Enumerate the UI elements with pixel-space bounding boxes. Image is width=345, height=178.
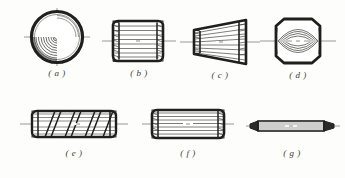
figure-g: ( g ) bbox=[244, 104, 342, 148]
figure-a-caption: ( a ) bbox=[27, 68, 87, 78]
figure-d-drawing bbox=[258, 12, 338, 70]
point-right-g bbox=[324, 121, 334, 131]
figure-e-drawing bbox=[18, 100, 130, 148]
figure-d-caption: ( d ) bbox=[268, 70, 328, 80]
figure-a-drawing bbox=[22, 6, 92, 68]
figure-b-caption: ( b ) bbox=[109, 68, 169, 78]
outer-circle-a bbox=[32, 12, 83, 63]
figure-b-drawing bbox=[100, 14, 178, 68]
figure-g-drawing bbox=[244, 104, 342, 148]
figure-c-drawing bbox=[178, 12, 262, 70]
figure-e-caption: ( e ) bbox=[44, 148, 104, 158]
point-left-g bbox=[250, 121, 258, 131]
figure-d: ( d ) bbox=[258, 12, 338, 70]
figure-f-caption: ( f ) bbox=[158, 148, 218, 158]
figure-f-drawing bbox=[140, 100, 236, 148]
figure-g-caption: ( g ) bbox=[262, 148, 322, 158]
figure-f: ( f ) bbox=[140, 100, 236, 148]
figure-c-caption: ( c ) bbox=[190, 70, 250, 80]
figure-c: ( c ) bbox=[178, 12, 262, 70]
figure-a: ( a ) bbox=[22, 6, 92, 68]
drawing-sheet: ( a ) bbox=[0, 0, 345, 178]
figure-e: ( e ) bbox=[18, 100, 130, 148]
figure-b: ( b ) bbox=[100, 14, 178, 68]
